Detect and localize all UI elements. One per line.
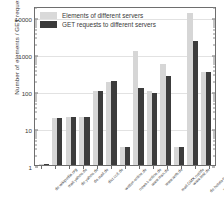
x-axis-labels: de.wikipedia.orgmail.yahoo.dede.yahoo.de… xyxy=(34,167,216,205)
x-axis-tick-label: de.hotels-hotel.de xyxy=(209,167,224,194)
bar xyxy=(71,117,76,165)
bar xyxy=(57,118,62,165)
bar-group xyxy=(105,8,119,165)
legend-item: GET requests to different servers xyxy=(40,21,156,28)
bar-chart: Number of elements / GET requests 110100… xyxy=(0,0,224,205)
bar xyxy=(44,164,49,165)
legend-label: GET requests to different servers xyxy=(62,21,156,28)
plot-area: 110100100010000 xyxy=(34,7,216,166)
bar xyxy=(179,147,184,165)
bar-group xyxy=(91,8,105,165)
bar-group xyxy=(132,8,146,165)
chart-legend: Elements of different serversGET request… xyxy=(40,12,156,30)
y-axis-tick-label: 10 xyxy=(25,127,35,134)
bar xyxy=(206,72,211,165)
bar-group xyxy=(78,8,92,165)
bar xyxy=(138,88,143,165)
bar xyxy=(98,91,103,165)
bar-group xyxy=(64,8,78,165)
bar-group xyxy=(172,8,186,165)
y-axis-tick-label: 100 xyxy=(22,90,35,97)
y-axis-tick-label: 1000 xyxy=(18,53,35,60)
bar-groups xyxy=(35,8,215,165)
bar-group xyxy=(145,8,159,165)
bar xyxy=(152,93,157,165)
bar-group xyxy=(51,8,65,165)
legend-swatch xyxy=(40,21,57,28)
legend-item: Elements of different servers xyxy=(40,12,156,19)
legend-label: Elements of different servers xyxy=(62,12,143,19)
bar-group xyxy=(186,8,200,165)
y-axis-tick-label: 10000 xyxy=(15,16,35,23)
bar xyxy=(111,81,116,165)
bar xyxy=(166,76,171,165)
bar-group xyxy=(199,8,213,165)
bar-group xyxy=(37,8,51,165)
bar xyxy=(84,117,89,165)
bar xyxy=(193,41,198,165)
bar-group xyxy=(159,8,173,165)
legend-swatch xyxy=(40,12,57,19)
bar xyxy=(125,147,130,165)
bar-group xyxy=(118,8,132,165)
